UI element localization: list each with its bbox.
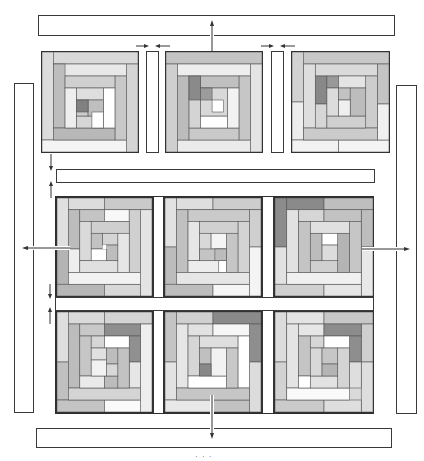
arrow-inward-pair-icon: [136, 43, 170, 49]
horizontal-sashing-strip-2: [55, 297, 374, 311]
quilt-block-r1c2: [165, 51, 263, 153]
arrow-left-icon: [22, 245, 70, 251]
vertical-sashing-strip-6: [262, 311, 274, 413]
arrow-down-icon: [209, 395, 215, 439]
quilt-block-r1c3: [291, 51, 390, 153]
arrow-vertical-pair-icon: [48, 154, 54, 198]
arrow-right-icon: [362, 246, 410, 252]
quilt-block-r2c1: [56, 197, 153, 297]
quilt-block-r3c3: [274, 311, 374, 413]
arrow-vertical-pair-icon: [47, 284, 53, 324]
vertical-sashing-strip-5: [153, 311, 164, 413]
top-border-strip: [38, 15, 395, 36]
quilt-block-r1c1: [41, 51, 139, 153]
vertical-sashing-strip-4: [262, 197, 274, 297]
horizontal-sashing-strip: [56, 169, 375, 183]
quilt-block-r3c1: [56, 311, 153, 413]
vertical-sashing-strip-3: [153, 197, 164, 297]
vertical-sashing-strip-2: [271, 51, 284, 153]
vertical-sashing-strip-1: [146, 51, 159, 153]
quilt-block-r2c3: [274, 197, 374, 297]
arrow-inward-pair-icon: [261, 43, 295, 49]
quilt-block-r2c2: [164, 197, 262, 297]
caption-text: · · ·: [195, 452, 212, 461]
